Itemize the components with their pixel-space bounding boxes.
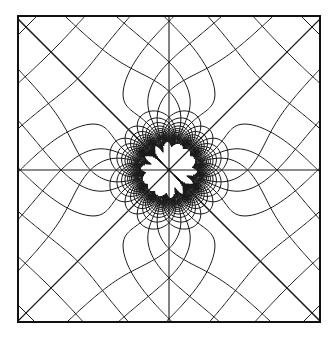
conformal-net-figure: [0, 0, 335, 339]
square-frame: [0, 0, 335, 339]
